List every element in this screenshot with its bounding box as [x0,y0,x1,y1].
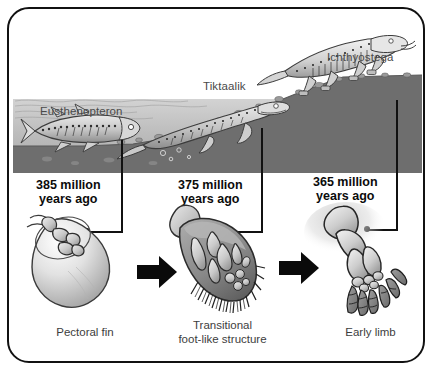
specimen-early-limb [300,198,422,318]
transitional-foot-illustration [158,200,283,318]
caption-early-limb-line1: Early limb [318,325,423,339]
age-callout-385-line1: 385 million [36,178,101,192]
organism-label-tiktaalik: Tiktaalik [203,80,246,92]
organism-label-eusthenopteron: Eusthenopteron [40,105,123,117]
specimen-pectoral-fin [22,205,147,315]
specimen-transitional-foot [158,200,283,318]
early-limb-illustration [300,198,422,318]
caption-pectoral-fin-line1: Pectoral fin [23,325,147,339]
pectoral-fin-illustration [22,205,147,315]
age-callout-365-line1: 365 million [313,175,378,189]
caption-transitional-foot-line1: Transitional [155,318,290,332]
age-callout-385-line2: years ago [36,192,101,206]
caption-early-limb: Early limb [318,325,423,339]
caption-transitional-foot-line2: foot-like structure [155,332,290,346]
evolution-diagram-figure: Eusthenopteron Tiktaalik Ichthyostega 38… [0,0,436,374]
age-callout-385: 385 million years ago [36,178,101,206]
habitat-scene-illustration [13,13,422,173]
age-callout-375-line1: 375 million [178,178,243,192]
organism-label-ichthyostega: Ichthyostega [327,51,393,63]
habitat-scene: Eusthenopteron Tiktaalik Ichthyostega [13,13,422,173]
caption-pectoral-fin: Pectoral fin [23,325,147,339]
caption-transitional-foot: Transitional foot-like structure [155,318,290,346]
